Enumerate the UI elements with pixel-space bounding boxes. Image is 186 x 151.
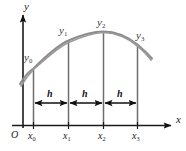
figure-canvas: [0, 0, 186, 151]
ordinate-label-y3-sub: 3: [141, 35, 144, 42]
y-axis-label: y: [24, 1, 29, 12]
abscissa-label-x0: x0: [28, 131, 36, 141]
function-curve: [20, 32, 152, 85]
interval-label-h-2: h: [82, 89, 88, 99]
ordinate-label-y1-sub: 1: [64, 30, 67, 37]
abscissa-label-x1: x1: [63, 131, 71, 141]
interval-label-h-1: h: [47, 89, 53, 99]
ordinate-label-y2-sub: 2: [102, 22, 105, 29]
ordinate-lines: [34, 32, 138, 126]
abscissa-label-x2: x2: [98, 131, 106, 141]
ordinate-label-y3: y3: [136, 30, 144, 41]
abscissa-label-x2-sub: 2: [102, 135, 105, 142]
ordinate-label-y1: y1: [59, 25, 67, 36]
abscissa-label-x3: x3: [132, 131, 140, 141]
numerical-integration-figure: y x O y0 y1 y2 y3 x0 x1 x2 x3 h h h: [0, 0, 186, 151]
x-axis-label: x: [176, 114, 181, 125]
abscissa-label-x0-sub: 0: [32, 135, 35, 142]
ordinate-label-y0: y0: [24, 52, 32, 63]
abscissa-label-x1-sub: 1: [67, 135, 70, 142]
ordinate-label-y0-sub: 0: [29, 57, 32, 64]
ordinate-label-y2: y2: [97, 17, 105, 28]
approximating-curve: [21, 33, 151, 87]
interval-label-h-3: h: [117, 89, 123, 99]
abscissa-label-x3-sub: 3: [136, 135, 139, 142]
origin-label: O: [11, 130, 18, 140]
